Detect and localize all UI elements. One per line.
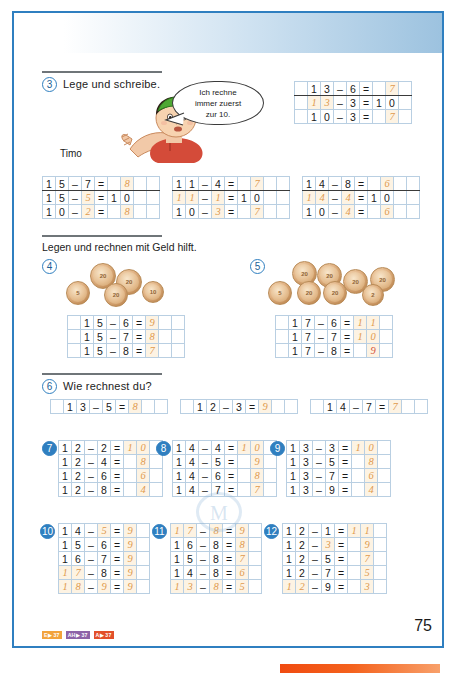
task-9-table[interactable]: 13–3=1013–5=813–7=613–9=4 [286, 440, 391, 497]
task-6-table-a[interactable]: 13–5=8 [50, 399, 168, 414]
answer-cell[interactable]: 9 [124, 580, 137, 594]
grid-cell-empty [172, 316, 185, 330]
answer-cell[interactable]: 9 [259, 400, 272, 414]
answer-cell[interactable]: 9 [124, 566, 137, 580]
answer-cell[interactable]: 1 [367, 316, 380, 330]
answer-cell[interactable]: 5 [236, 580, 249, 594]
answer-cell[interactable]: 3 [361, 580, 374, 594]
answer-cell[interactable]: 2 [82, 205, 95, 219]
task-7-table[interactable]: 12–2=1012–4=812–6=612–8=4 [58, 440, 163, 497]
answer-cell[interactable]: 2 [296, 580, 309, 594]
answer-cell[interactable]: 5 [361, 566, 374, 580]
answer-cell[interactable]: 9 [367, 344, 380, 358]
task-6-table-b[interactable]: 12–3=9 [180, 399, 298, 414]
answer-cell[interactable]: 1 [173, 191, 186, 205]
answer-cell[interactable]: 1 [171, 524, 184, 538]
answer-cell[interactable]: 7 [251, 177, 264, 191]
task-11-table[interactable]: 17–8=916–8=815–8=714–8=613–8=5 [170, 523, 262, 594]
task-5-table[interactable]: 17–6=1117–7=1017–8=9 [275, 315, 393, 358]
answer-cell[interactable]: 5 [98, 524, 111, 538]
answer-cell[interactable]: 1 [303, 191, 316, 205]
answer-cell[interactable]: 8 [365, 455, 378, 469]
task-6-table-c[interactable]: 14–7=7 [310, 399, 428, 414]
answer-cell[interactable]: 1 [171, 580, 184, 594]
answer-cell[interactable]: 4 [342, 191, 355, 205]
answer-cell[interactable]: 9 [124, 524, 137, 538]
task-3-table-2[interactable]: 11–4=711–1=1010–3=7 [172, 176, 290, 219]
task-3-table-1[interactable]: 15–7=815–5=1010–2=8 [42, 176, 160, 219]
answer-cell[interactable]: 7 [361, 552, 374, 566]
answer-cell[interactable]: 6 [381, 205, 394, 219]
answer-cell[interactable]: 8 [251, 469, 264, 483]
answer-cell[interactable]: 3 [322, 538, 335, 552]
task-12-table[interactable]: 12–1=1112–3=912–5=712–7=512–9=3 [282, 523, 387, 594]
answer-cell[interactable]: 1 [348, 524, 361, 538]
answer-cell[interactable]: 6 [236, 566, 249, 580]
task-3-table-3[interactable]: 14–8=614–4=1010–4=6 [302, 176, 420, 219]
answer-cell[interactable]: 6 [381, 177, 394, 191]
answer-cell[interactable]: 4 [137, 483, 150, 497]
answer-cell[interactable]: 9 [146, 316, 159, 330]
answer-cell[interactable]: 7 [236, 552, 249, 566]
answer-cell[interactable]: 3 [212, 205, 225, 219]
grid-cell: 1 [171, 566, 184, 580]
task-4-table[interactable]: 15–6=915–7=815–8=7 [67, 315, 185, 358]
answer-cell[interactable]: 9 [236, 524, 249, 538]
answer-cell[interactable]: 3 [321, 96, 334, 110]
answer-cell[interactable]: 0 [365, 441, 378, 455]
grid-cell: 3 [300, 455, 313, 469]
answer-cell[interactable]: 0 [137, 441, 150, 455]
answer-cell[interactable]: 9 [361, 538, 374, 552]
grid-cell-empty [378, 455, 391, 469]
answer-cell[interactable]: 1 [361, 524, 374, 538]
answer-cell[interactable]: 7 [184, 524, 197, 538]
answer-cell[interactable]: 9 [124, 552, 137, 566]
answer-cell[interactable]: 1 [308, 96, 321, 110]
answer-cell[interactable]: 8 [72, 580, 85, 594]
answer-cell[interactable]: 0 [367, 330, 380, 344]
answer-cell[interactable]: 3 [184, 580, 197, 594]
answer-cell[interactable]: 8 [121, 205, 134, 219]
answer-cell[interactable]: 9 [251, 455, 264, 469]
task-10-table[interactable]: 14–5=915–6=916–7=917–8=918–9=9 [58, 523, 150, 594]
answer-cell[interactable]: 8 [146, 330, 159, 344]
answer-cell[interactable]: 0 [251, 441, 264, 455]
answer-cell[interactable]: 4 [342, 205, 355, 219]
answer-cell[interactable]: 8 [121, 177, 134, 191]
grid-cell: 0 [186, 205, 199, 219]
answer-cell[interactable]: 4 [316, 191, 329, 205]
answer-cell[interactable]: 8 [210, 580, 223, 594]
answer-cell[interactable]: 4 [365, 483, 378, 497]
grid-cell-empty [352, 483, 365, 497]
answer-cell[interactable]: 1 [238, 441, 251, 455]
grid-cell-empty [264, 455, 277, 469]
answer-cell[interactable]: 1 [352, 441, 365, 455]
answer-cell[interactable]: 8 [129, 400, 142, 414]
answer-cell[interactable]: 7 [251, 483, 264, 497]
answer-cell[interactable]: 7 [386, 82, 399, 96]
answer-cell[interactable]: 1 [59, 566, 72, 580]
task-8-table[interactable]: 14–4=1014–5=914–6=814–7=7 [172, 440, 277, 497]
answer-cell[interactable]: 9 [124, 538, 137, 552]
answer-cell[interactable]: 1 [283, 580, 296, 594]
grid-cell: – [85, 524, 98, 538]
answer-cell[interactable]: 5 [82, 191, 95, 205]
answer-cell[interactable]: 1 [354, 316, 367, 330]
answer-cell[interactable]: 1 [186, 191, 199, 205]
answer-cell[interactable]: 1 [59, 580, 72, 594]
answer-cell[interactable]: 7 [251, 205, 264, 219]
answer-cell[interactable]: 1 [354, 330, 367, 344]
speech-line-1: Ich rechne [173, 87, 263, 98]
answer-cell[interactable]: 7 [72, 566, 85, 580]
answer-cell[interactable]: 6 [137, 469, 150, 483]
answer-cell[interactable]: 9 [98, 580, 111, 594]
answer-cell[interactable]: 1 [212, 191, 225, 205]
grid-cell: = [341, 316, 354, 330]
answer-cell[interactable]: 8 [137, 455, 150, 469]
answer-cell[interactable]: 8 [236, 538, 249, 552]
answer-cell[interactable]: 7 [389, 400, 402, 414]
answer-cell[interactable]: 7 [146, 344, 159, 358]
answer-cell[interactable]: 1 [124, 441, 137, 455]
answer-cell[interactable]: 6 [365, 469, 378, 483]
answer-cell[interactable]: 7 [386, 110, 399, 124]
